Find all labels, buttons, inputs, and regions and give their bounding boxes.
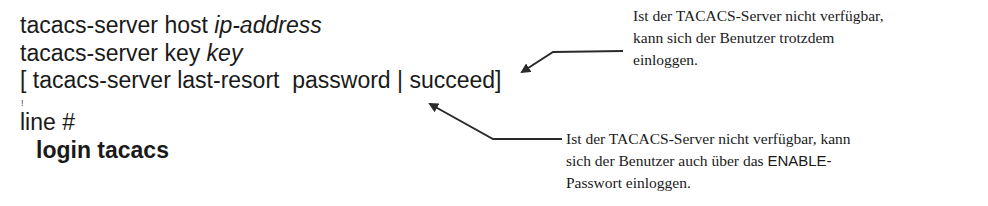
arrows-layer [0,0,988,206]
arrow-to-succeed [522,51,623,72]
arrow-to-password [430,104,562,139]
